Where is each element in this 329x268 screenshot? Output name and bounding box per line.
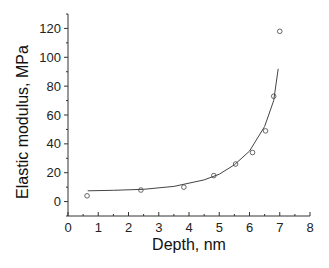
x-axis-title: Depth, nm [152,236,226,253]
tick-labels: 012345678020406080100120 [39,21,313,235]
data-point [277,29,282,34]
x-tick-label: 2 [125,220,132,235]
y-tick-label: 60 [47,108,61,123]
data-point [85,194,90,199]
y-tick-label: 100 [39,50,61,65]
x-tick-label: 0 [64,220,71,235]
y-tick-label: 0 [54,194,61,209]
y-tick-label: 40 [47,136,61,151]
y-tick-label: 20 [47,165,61,180]
data-point [263,129,268,134]
x-tick-label: 7 [276,220,283,235]
y-tick-label: 80 [47,79,61,94]
y-tick-label: 120 [39,21,61,36]
x-tick-label: 1 [95,220,102,235]
data-point [182,185,187,190]
plot-area [85,29,282,198]
fit-curve [88,69,279,191]
x-tick-label: 6 [246,220,253,235]
y-axis-title: Elastic modulus, MPa [14,45,31,199]
data-point [139,188,144,193]
x-tick-label: 8 [306,220,313,235]
x-tick-label: 4 [185,220,192,235]
chart: 012345678020406080100120 Depth, nm Elast… [0,0,329,268]
axes [64,14,310,216]
x-tick-label: 3 [155,220,162,235]
x-tick-label: 5 [216,220,223,235]
data-point [250,150,255,155]
